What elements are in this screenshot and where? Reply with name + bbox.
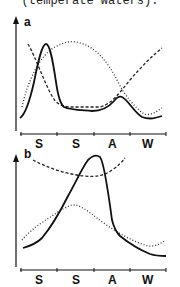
- x-tick-label: W: [142, 273, 154, 287]
- x-tick-label: S: [72, 273, 80, 287]
- series-solid: [23, 156, 166, 256]
- series-dotted: [22, 205, 166, 246]
- series-dashed: [28, 44, 162, 107]
- x-tick-label: A: [108, 137, 117, 151]
- panel-b: b S S A W: [13, 147, 166, 287]
- y-axis-arrow-icon: [13, 16, 19, 24]
- y-axis-arrow-icon: [13, 154, 19, 162]
- panel-b-label: b: [24, 147, 31, 161]
- x-tick-label: S: [35, 137, 43, 151]
- chart-figure: a S S A W b: [0, 0, 180, 287]
- x-tick-label: A: [108, 273, 117, 287]
- x-tick-label: S: [72, 137, 80, 151]
- x-tick-label: S: [35, 273, 43, 287]
- panel-a-label: a: [24, 15, 31, 29]
- panel-a: a S S A W: [13, 15, 166, 151]
- x-tick-label: W: [142, 137, 154, 151]
